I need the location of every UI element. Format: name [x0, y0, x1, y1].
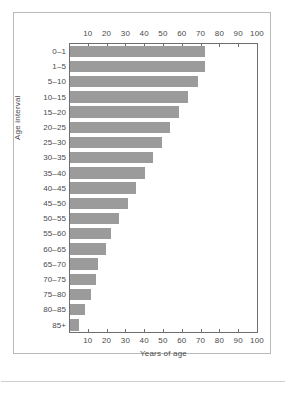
category-label: 75–80	[20, 287, 66, 302]
bar-75-80	[70, 289, 91, 300]
bar-row	[70, 181, 258, 196]
bottom-tick-label-60: 60	[177, 336, 186, 345]
bar-row	[70, 226, 258, 241]
category-label: 15–20	[20, 105, 66, 120]
bar-30-35	[70, 152, 153, 163]
bar-row	[70, 196, 258, 211]
top-tick-label-60: 60	[177, 29, 186, 38]
bar-row	[70, 302, 258, 317]
bar-row	[70, 166, 258, 181]
bar-1-5	[70, 61, 205, 72]
bar-row	[70, 272, 258, 287]
category-axis-labels: 0–11–55–1010–1515–2020–2525–3030–3535–40…	[20, 44, 66, 333]
bar-80-85	[70, 304, 85, 315]
bar-row	[70, 287, 258, 302]
bar-55-60	[70, 228, 111, 239]
bar-row	[70, 105, 258, 120]
top-tick-label-20: 20	[102, 29, 111, 38]
bar-65-70	[70, 258, 98, 269]
top-tick-label-10: 10	[83, 29, 92, 38]
bottom-tick-label-10: 10	[83, 336, 92, 345]
category-label: 60–65	[20, 242, 66, 257]
category-label: 0–1	[20, 44, 66, 59]
bar-20-25	[70, 122, 170, 133]
bottom-tick-label-20: 20	[102, 336, 111, 345]
category-label: 25–30	[20, 135, 66, 150]
bar-50-55	[70, 213, 119, 224]
bar-row	[70, 120, 258, 135]
top-tick-label-40: 40	[140, 29, 149, 38]
bottom-tick-label-50: 50	[158, 336, 167, 345]
bar-60-65	[70, 243, 106, 254]
bottom-tick-label-30: 30	[121, 336, 130, 345]
bar-35-40	[70, 167, 145, 178]
bar-row	[70, 242, 258, 257]
category-label: 40–45	[20, 181, 66, 196]
bar-row	[70, 257, 258, 272]
bar-15-20	[70, 106, 179, 117]
top-tick-label-30: 30	[121, 29, 130, 38]
bar-25-30	[70, 137, 162, 148]
bar-45-50	[70, 198, 128, 209]
y-axis-title: Age interval	[13, 95, 22, 140]
top-tick-label-100: 100	[250, 29, 264, 38]
bottom-tick-label-40: 40	[140, 336, 149, 345]
bar-row	[70, 90, 258, 105]
bar-row	[70, 150, 258, 165]
category-label: 80–85	[20, 302, 66, 317]
top-tick-label-50: 50	[158, 29, 167, 38]
bar-70-75	[70, 274, 96, 285]
bar-0-1	[70, 46, 205, 57]
bar-row	[70, 135, 258, 150]
top-axis-tick-labels: 102030405060708090100	[69, 29, 258, 41]
category-label: 20–25	[20, 120, 66, 135]
population-age-bar-chart: 102030405060708090100 102030405060708090…	[0, 0, 286, 397]
top-tick-label-80: 80	[215, 29, 224, 38]
bar-row	[70, 44, 258, 59]
category-label: 10–15	[20, 90, 66, 105]
bottom-axis-tick-labels: 102030405060708090100	[69, 336, 258, 348]
bar-5-10	[70, 76, 198, 87]
bar-85+	[70, 319, 79, 330]
top-tick-label-70: 70	[196, 29, 205, 38]
bar-10-15	[70, 91, 188, 102]
bar-row	[70, 74, 258, 89]
top-tick-label-90: 90	[234, 29, 243, 38]
bar-row	[70, 59, 258, 74]
category-label: 70–75	[20, 272, 66, 287]
category-label: 55–60	[20, 226, 66, 241]
x-axis-title: Years of age	[69, 349, 258, 358]
category-label: 85+	[20, 318, 66, 333]
category-label: 50–55	[20, 211, 66, 226]
category-label: 65–70	[20, 257, 66, 272]
bottom-tick-label-100: 100	[250, 336, 264, 345]
bar-series	[70, 44, 258, 333]
bottom-tick-label-80: 80	[215, 336, 224, 345]
category-label: 1–5	[20, 59, 66, 74]
category-label: 5–10	[20, 74, 66, 89]
bottom-tick-label-70: 70	[196, 336, 205, 345]
category-label: 30–35	[20, 150, 66, 165]
bar-row	[70, 211, 258, 226]
bar-40-45	[70, 182, 136, 193]
bottom-tick-label-90: 90	[234, 336, 243, 345]
category-label: 35–40	[20, 166, 66, 181]
category-label: 45–50	[20, 196, 66, 211]
bar-row	[70, 318, 258, 333]
